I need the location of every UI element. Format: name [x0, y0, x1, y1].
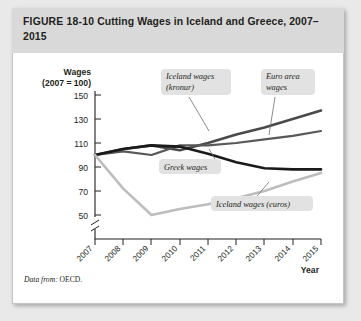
- x-axis-ticks: [95, 239, 321, 245]
- x-tick-2012: 2012: [216, 244, 236, 264]
- y-tick-110: 110: [74, 139, 88, 149]
- x-axis-line: [95, 229, 321, 239]
- x-tick-2009: 2009: [131, 244, 151, 264]
- figure-title: FIGURE 18-10 Cutting Wages in Iceland an…: [23, 15, 332, 44]
- source-label: Data from:: [24, 275, 58, 284]
- callout-euro-area: Euro area wages: [261, 69, 315, 95]
- callout-iceland-kronur-line1: Iceland wages: [165, 72, 214, 81]
- callout-greek-wages: Greek wages: [159, 159, 221, 174]
- callout-greek-wages-text: Greek wages: [164, 163, 207, 172]
- line-chart: Wages (2007 = 100) 150 130 110 90 70 50: [13, 53, 343, 302]
- callout-iceland-kronur: Iceland wages (kronur): [161, 69, 231, 95]
- callout-iceland-kronur-line2: (kronur): [166, 83, 194, 92]
- y-axis-title-line2: (2007 = 100): [42, 78, 91, 88]
- y-tick-150: 150: [74, 91, 89, 101]
- x-axis-labels: 2007 2008 2009 2010 2011 2012 2013 2014 …: [75, 244, 321, 264]
- x-tick-2008: 2008: [103, 244, 123, 264]
- source-value: OECD.: [60, 275, 83, 284]
- x-tick-2015: 2015: [301, 244, 321, 264]
- figure-body: Wages (2007 = 100) 150 130 110 90 70 50: [12, 53, 344, 304]
- x-tick-2010: 2010: [160, 244, 180, 264]
- y-axis-title-line1: Wages: [64, 67, 92, 77]
- x-tick-2013: 2013: [244, 244, 264, 264]
- callout-euro-area-line1: Euro area: [265, 72, 300, 81]
- callout-iceland-euros: Iceland wages (euros): [211, 196, 313, 211]
- y-tick-50: 50: [78, 211, 88, 221]
- source-note: Data from: OECD.: [24, 275, 82, 284]
- callout-iceland-euros-text: Iceland wages (euros): [215, 200, 290, 209]
- figure-header: FIGURE 18-10 Cutting Wages in Iceland an…: [12, 8, 344, 53]
- x-tick-2014: 2014: [273, 244, 293, 264]
- x-axis-title: Year: [301, 265, 320, 275]
- y-tick-130: 130: [74, 115, 89, 125]
- figure-number: FIGURE 18-10: [23, 16, 94, 27]
- figure-card: FIGURE 18-10 Cutting Wages in Iceland an…: [12, 8, 344, 304]
- callout-euro-area-line2: wages: [266, 83, 287, 92]
- y-tick-70: 70: [78, 187, 88, 197]
- y-tick-90: 90: [78, 163, 88, 173]
- x-tick-2007: 2007: [75, 244, 95, 264]
- x-tick-2011: 2011: [189, 244, 208, 263]
